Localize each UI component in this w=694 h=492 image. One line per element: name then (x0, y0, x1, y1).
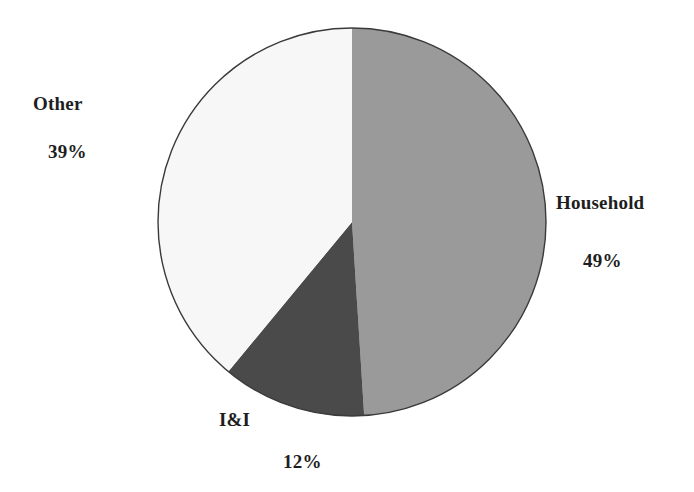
label-other: Other (33, 93, 83, 115)
label-other-pct: 39% (48, 141, 87, 163)
label-household-pct: 49% (583, 250, 622, 272)
pie-chart (0, 0, 694, 492)
label-household: Household (556, 192, 644, 214)
label-ii-pct: 12% (283, 451, 322, 473)
label-ii: I&I (219, 409, 250, 431)
pie-slices (158, 28, 546, 416)
pie-slice-household (352, 28, 546, 416)
